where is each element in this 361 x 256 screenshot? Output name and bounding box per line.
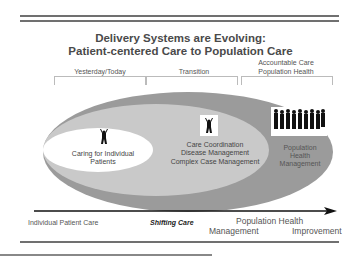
axis-label-individual: Individual Patient Care [28, 219, 98, 226]
middle-ellipse-label-3: Complex Case Management [160, 158, 270, 167]
axis-label-shifting-care: Shifting Care [150, 219, 194, 226]
single-person-icon [204, 117, 214, 134]
axis-label-management: Management [209, 226, 259, 236]
bottom-rule [20, 241, 339, 243]
axis-label-improvement: Improvement [292, 226, 342, 236]
single-person-icon [99, 129, 109, 144]
axis-arrow [0, 205, 361, 217]
middle-ellipse-label-2: Disease Management [165, 149, 265, 158]
axis-label-population-health: Population Health [236, 216, 303, 226]
inner-ellipse-label-2: Patients [63, 158, 143, 167]
outer-ellipse-label-3: Management [268, 160, 332, 169]
crowd-icon [272, 108, 326, 130]
